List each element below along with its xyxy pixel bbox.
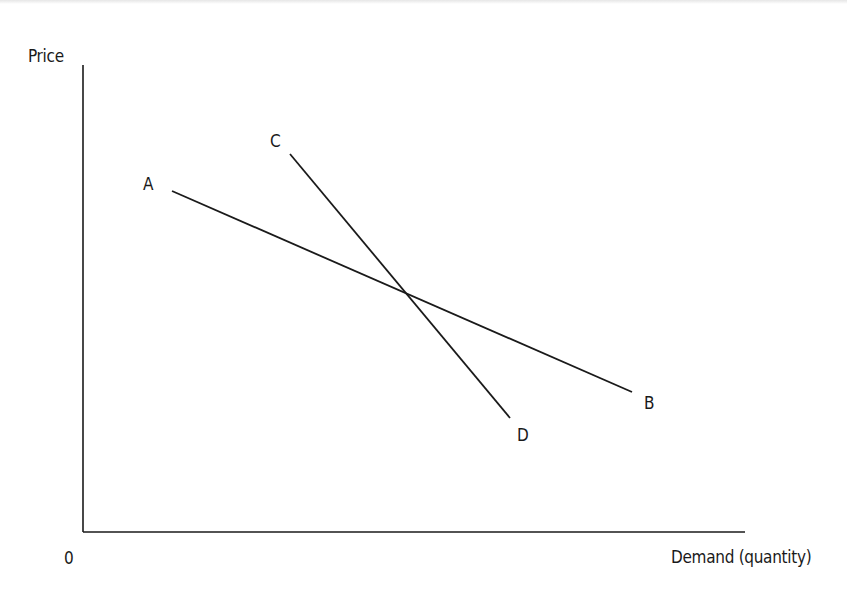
point-label-d: D xyxy=(517,427,528,444)
point-label-c: C xyxy=(270,133,280,150)
origin-label: 0 xyxy=(64,550,73,567)
point-label-a: A xyxy=(143,176,153,193)
point-label-b: B xyxy=(644,395,654,412)
demand-line-cd xyxy=(290,154,510,418)
demand-line-ab xyxy=(172,191,632,392)
x-axis-label: Demand (quantity) xyxy=(671,549,811,566)
demand-curve-diagram xyxy=(0,0,847,597)
y-axis-label: Price xyxy=(28,48,64,65)
